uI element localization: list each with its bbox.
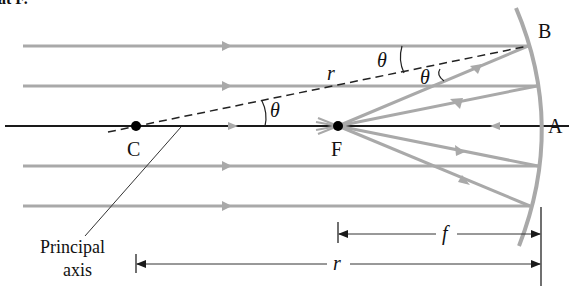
angle-arc-b-top [400,46,404,73]
label-f: F [331,138,342,160]
label-a: A [548,115,563,137]
label-c: C [127,138,140,160]
arrow-right-icon [222,201,232,211]
label-b: B [538,20,551,42]
cutoff-caption: at F. [0,0,28,7]
label-dim-f: f [442,222,450,245]
label-theta-c: θ [270,99,280,121]
focal-point [333,121,343,131]
arrow-right-icon [222,81,232,91]
arrow-left-icon [490,122,500,130]
arrow-right-icon [228,122,238,130]
center-of-curvature-point [131,121,141,131]
reflected-ray-4 [338,126,538,166]
label-radius-r: r [327,62,335,84]
label-theta-top: θ [377,49,387,71]
angle-arc-c [262,101,266,126]
label-dim-r: r [333,252,341,274]
concave-mirror-diagram: at F. [0,0,569,286]
arrow-right-icon [222,161,232,171]
label-principal: Principal [40,237,105,257]
reflected-ray-2 [338,86,537,126]
angle-arc-b-lower [439,69,444,81]
radius-dashed-line [108,46,528,132]
label-axis: axis [63,260,92,280]
arrow-right-icon [222,41,232,51]
label-theta-lower: θ [420,66,430,88]
